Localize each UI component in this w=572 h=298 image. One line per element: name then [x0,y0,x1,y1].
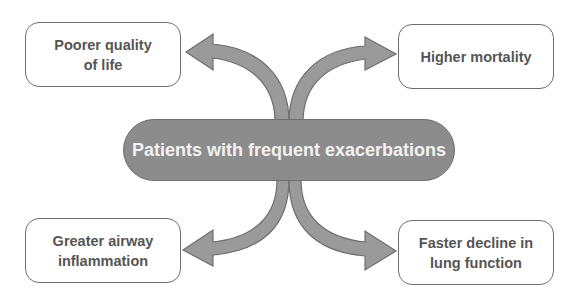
outcome-box-quality-of-life: Poorer quality of life [25,22,181,87]
center-label: Patients with frequent exacerbations [132,140,446,161]
arrow-to-airway-inflammation [183,180,289,266]
arrow-to-lung-function-decline [289,180,396,270]
outcome-label: Higher mortality [420,47,531,67]
arrow-to-quality-of-life [186,34,289,122]
outcome-label: Greater airway inflammation [48,231,158,271]
arrow-to-mortality [289,37,396,122]
outcome-label: Faster decline in lung function [416,233,536,273]
center-node-patients: Patients with frequent exacerbations [123,119,455,181]
outcome-box-lung-function: Faster decline in lung function [398,220,554,285]
outcome-box-airway-inflammation: Greater airway inflammation [25,218,181,283]
outcome-label: Poorer quality of life [48,35,158,75]
outcome-box-mortality: Higher mortality [398,24,554,89]
